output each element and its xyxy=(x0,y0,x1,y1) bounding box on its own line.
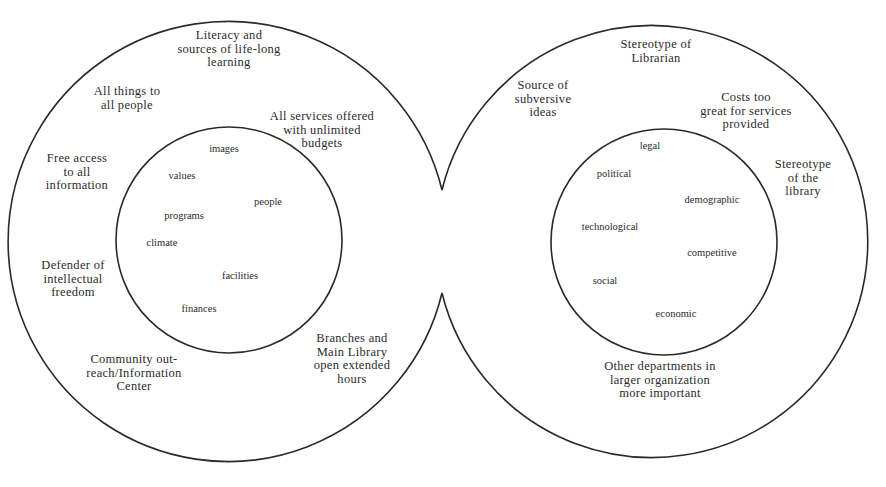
left-inner-label: finances xyxy=(182,303,217,314)
left-outer-label: All things toall people xyxy=(94,84,160,112)
right-outer-label: Costs toogreat for servicesprovided xyxy=(700,90,791,131)
left-inner-label: people xyxy=(254,196,282,207)
right-outer-label: Stereotypeof thelibrary xyxy=(775,157,832,198)
right-inner-label: social xyxy=(593,275,618,286)
right-outer-labels: Stereotype ofLibrarianSource ofsubversiv… xyxy=(515,37,832,400)
left-inner-label: facilities xyxy=(222,270,258,281)
left-outer-label: Free accessto allinformation xyxy=(46,151,109,192)
right-inner-label: political xyxy=(597,168,631,179)
left-outer-label: Defender ofintellectualfreedom xyxy=(41,258,105,299)
right-outer-label: Stereotype ofLibrarian xyxy=(621,37,692,65)
right-outer-label: Other departments inlarger organizationm… xyxy=(604,359,716,400)
right-inner-label: technological xyxy=(582,221,639,232)
right-inner-label: demographic xyxy=(685,194,740,205)
left-inner-label: images xyxy=(209,143,239,154)
right-inner-label: legal xyxy=(640,140,660,151)
right-inner-label: economic xyxy=(656,308,697,319)
right-inner-circle xyxy=(551,129,777,355)
left-inner-label: values xyxy=(169,170,196,181)
left-outer-label: Literacy andsources of life-longlearning xyxy=(177,28,281,69)
left-inner-label: programs xyxy=(164,210,204,221)
left-inner-label: climate xyxy=(147,237,178,248)
left-outer-label: Community out-reach/InformationCenter xyxy=(86,352,182,393)
left-outer-label: Branches andMain Libraryopen extendedhou… xyxy=(314,331,391,386)
right-inner-label: competitive xyxy=(687,247,737,258)
left-inner-labels: imagesvaluespeopleprogramsclimatefacilit… xyxy=(147,143,283,314)
left-outer-label: All services offeredwith unlimitedbudget… xyxy=(270,109,375,150)
right-inner-labels: legalpoliticaldemographictechnologicalco… xyxy=(582,140,740,319)
library-image-diagram: Literacy andsources of life-longlearning… xyxy=(0,0,886,487)
right-outer-label: Source ofsubversiveideas xyxy=(515,78,572,119)
